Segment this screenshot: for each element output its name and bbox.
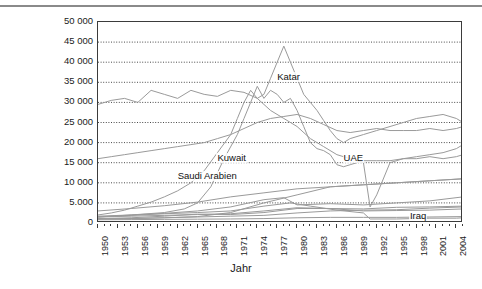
x-axis-tick-mark <box>97 224 98 228</box>
x-tick-label: 2001 <box>439 236 448 256</box>
x-axis-tick-mark <box>216 224 217 228</box>
x-axis-tick-mark <box>402 224 403 226</box>
x-tick-label: 1953 <box>121 236 130 256</box>
x-axis-tick-mark <box>442 224 443 226</box>
x-tick-label: 1965 <box>201 236 210 256</box>
x-axis-tick-mark <box>389 224 390 226</box>
x-axis-tick-mark <box>362 224 363 226</box>
x-tick-label: 1983 <box>320 236 329 256</box>
y-tick-label: 40 000 <box>41 56 93 66</box>
plot-area <box>97 21 462 222</box>
x-axis-tick-mark <box>150 224 151 226</box>
x-tick-label: 1971 <box>240 236 249 256</box>
x-axis-tick-mark <box>349 224 350 226</box>
y-tick-label: 15 000 <box>41 157 93 167</box>
x-axis-tick-mark <box>283 224 284 226</box>
x-axis-tick-mark <box>435 224 436 228</box>
y-tick-label: 10 000 <box>41 177 93 187</box>
x-tick-label: 1974 <box>260 236 269 256</box>
series-annotation: Kuwait <box>216 153 247 163</box>
x-axis-tick-mark <box>236 224 237 228</box>
x-axis-tick-mark <box>376 224 377 228</box>
x-axis-tick-mark <box>124 224 125 226</box>
x-axis-tick-mark <box>329 224 330 226</box>
x-axis-tick-mark <box>143 224 144 226</box>
x-axis-tick-mark <box>303 224 304 226</box>
x-axis-tick-mark <box>343 224 344 226</box>
x-axis-tick-mark <box>163 224 164 226</box>
x-axis-tick-mark <box>256 224 257 228</box>
x-axis-tick-mark <box>369 224 370 226</box>
x-axis-tick-mark <box>309 224 310 226</box>
series-annotation: Iraq <box>409 211 427 221</box>
x-axis-tick-mark <box>396 224 397 228</box>
y-tick-label: 50 000 <box>41 16 93 26</box>
x-tick-label: 1980 <box>300 236 309 256</box>
x-axis-tick-mark <box>422 224 423 226</box>
series-line <box>98 179 462 211</box>
y-tick-label: 35 000 <box>41 76 93 86</box>
y-tick-label: 30 000 <box>41 96 93 106</box>
series-line <box>98 90 462 207</box>
x-axis-tick-mark <box>289 224 290 226</box>
x-axis-tick-mark <box>183 224 184 226</box>
x-tick-label: 1968 <box>220 236 229 256</box>
x-axis-tick-mark <box>276 224 277 228</box>
x-axis-tick-mark <box>462 224 463 226</box>
x-tick-label: 1998 <box>420 236 429 256</box>
x-tick-label: 1950 <box>101 236 110 256</box>
x-axis-tick-mark <box>416 224 417 228</box>
x-tick-label: 1956 <box>141 236 150 256</box>
x-axis-tick-mark <box>130 224 131 226</box>
x-axis-tick-mark <box>336 224 337 228</box>
x-axis-tick-mark <box>203 224 204 226</box>
x-axis-tick-mark <box>316 224 317 228</box>
x-axis-tick-mark <box>190 224 191 226</box>
x-axis-tick-mark <box>296 224 297 228</box>
x-tick-label: 1977 <box>280 236 289 256</box>
x-axis-tick-mark <box>263 224 264 226</box>
series-line <box>98 206 462 217</box>
x-axis-tick-mark <box>170 224 171 226</box>
y-tick-label: 5.000 <box>41 197 93 207</box>
x-tick-label: 1989 <box>360 236 369 256</box>
x-axis-tick-mark <box>177 224 178 228</box>
x-axis-tick-mark <box>429 224 430 226</box>
x-axis-tick-mark <box>270 224 271 226</box>
x-axis-tick-mark <box>382 224 383 226</box>
y-tick-label: 45 000 <box>41 36 93 46</box>
x-axis-tick-mark <box>250 224 251 226</box>
y-tick-label: 25 000 <box>41 117 93 127</box>
series-line <box>98 86 462 217</box>
x-tick-label: 2004 <box>459 236 468 256</box>
x-axis-tick-mark <box>455 224 456 228</box>
x-axis-tick-mark <box>137 224 138 228</box>
series-annotation: UAE <box>343 153 365 163</box>
x-axis-tick-mark <box>110 224 111 226</box>
x-tick-label: 1962 <box>181 236 190 256</box>
x-axis-tick-mark <box>449 224 450 226</box>
x-axis-tick-mark <box>323 224 324 226</box>
chart-figure: Bruttosozialprodukt pro Einwohner in US … <box>0 0 482 289</box>
x-axis-tick-mark <box>197 224 198 228</box>
x-axis-title: Jahr <box>0 262 482 274</box>
x-axis-tick-mark <box>243 224 244 226</box>
y-tick-label: 20 000 <box>41 137 93 147</box>
x-axis-tick-mark <box>223 224 224 226</box>
series-lines <box>98 22 462 222</box>
x-tick-label: 1995 <box>400 236 409 256</box>
x-axis-tick-mark <box>210 224 211 226</box>
x-axis-tick-labels: 1950195319561959196219651968197119741977… <box>0 224 482 264</box>
x-axis-tick-mark <box>230 224 231 226</box>
x-tick-label: 1986 <box>340 236 349 256</box>
series-annotation: Katar <box>276 72 301 82</box>
x-tick-label: 1959 <box>161 236 170 256</box>
series-annotation: Saudi Arabien <box>177 171 238 181</box>
x-axis-tick-mark <box>117 224 118 228</box>
x-tick-label: 1992 <box>380 236 389 256</box>
x-axis-tick-mark <box>409 224 410 226</box>
x-axis-tick-mark <box>157 224 158 228</box>
x-axis-tick-mark <box>104 224 105 226</box>
x-axis-tick-mark <box>356 224 357 228</box>
